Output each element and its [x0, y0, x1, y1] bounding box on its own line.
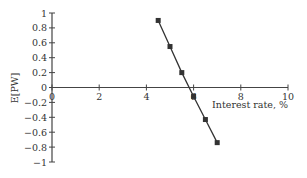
data-point-marker	[168, 44, 173, 49]
y-tick-label: 0.8	[32, 22, 47, 33]
y-tick-label: −0.6	[24, 127, 47, 138]
data-point-marker	[179, 70, 184, 75]
data-point-marker	[191, 94, 196, 99]
y-tick-label: 0.6	[32, 37, 47, 48]
data-point-marker	[215, 140, 220, 145]
y-axis: 10.80.60.40.20−0.2−0.4−0.6−0.8−1	[24, 8, 55, 168]
y-tick-label: −0.2	[24, 97, 47, 108]
x-tick-label: 0	[49, 91, 55, 102]
y-tick-label: −1	[33, 157, 47, 168]
x-tick-label: 2	[96, 91, 102, 102]
data-point-marker	[156, 18, 161, 23]
y-tick-label: 0	[41, 82, 47, 93]
y-tick-label: −0.8	[24, 142, 47, 153]
y-tick-label: −0.4	[24, 112, 47, 123]
data-point-marker	[203, 117, 208, 122]
data-series	[156, 18, 220, 145]
y-tick-label: 1	[41, 8, 47, 19]
x-tick-label: 4	[143, 91, 149, 102]
x-axis-title: Interest rate, %	[212, 99, 288, 110]
series-line	[158, 20, 217, 142]
y-axis-title: E[PW]	[9, 73, 20, 104]
y-tick-label: 0.2	[32, 67, 47, 78]
y-tick-label: 0.4	[32, 52, 47, 63]
chart: 10.80.60.40.20−0.2−0.4−0.6−0.8−1 0246810…	[0, 0, 307, 178]
